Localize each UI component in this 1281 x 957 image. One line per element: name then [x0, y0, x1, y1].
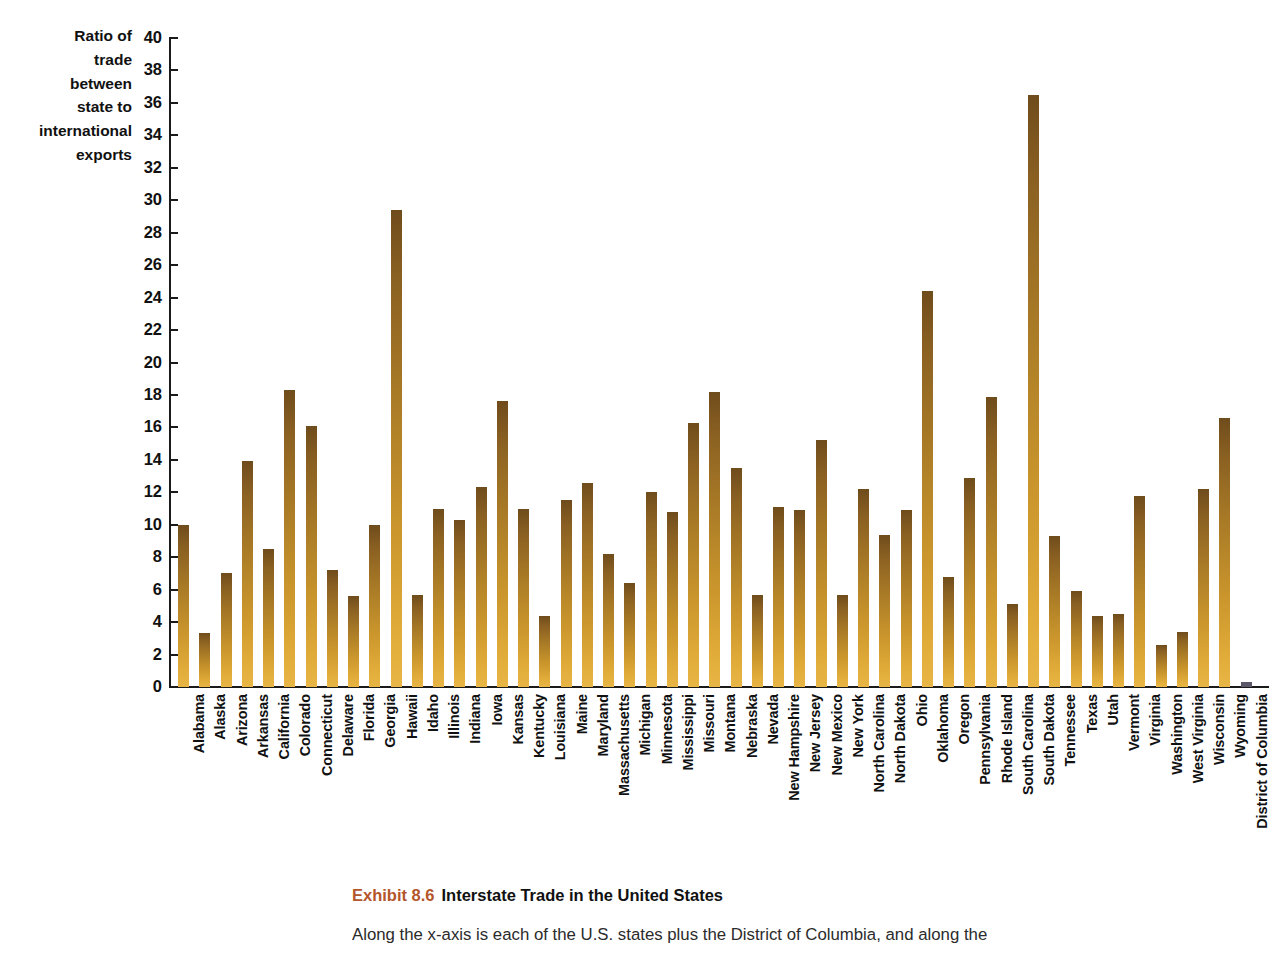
x-label-virginia: Virginia	[1147, 694, 1163, 746]
bar-new-hampshire[interactable]	[773, 507, 784, 687]
bar-new-mexico[interactable]	[816, 440, 827, 687]
exhibit-number: Exhibit 8.6	[352, 886, 435, 904]
y-tick-label-wrap: 14	[130, 451, 162, 468]
x-label-maryland: Maryland	[595, 694, 611, 756]
bar-colorado[interactable]	[284, 390, 295, 687]
y-tick-label: 26	[132, 256, 162, 273]
bar-missouri[interactable]	[688, 423, 699, 687]
bar-rhode-island[interactable]	[986, 397, 997, 687]
bar-virginia[interactable]	[1134, 496, 1145, 687]
y-tick-label-wrap: 40	[130, 29, 162, 46]
x-label-alabama: Alabama	[191, 694, 207, 753]
x-label-tennessee: Tennessee	[1062, 694, 1078, 766]
bar-nevada[interactable]	[752, 595, 763, 687]
bar-maine[interactable]	[561, 500, 572, 687]
bar-new-jersey[interactable]	[794, 510, 805, 687]
bar-new-york[interactable]	[837, 595, 848, 687]
bar-georgia[interactable]	[369, 525, 380, 687]
x-label-indiana: Indiana	[467, 694, 483, 744]
x-label-new-jersey: New Jersey	[807, 694, 823, 772]
y-tick-label-wrap: 28	[130, 224, 162, 241]
y-tick-label: 34	[132, 126, 162, 143]
x-label-kentucky: Kentucky	[531, 694, 547, 758]
bar-vermont[interactable]	[1113, 614, 1124, 687]
bar-california[interactable]	[263, 549, 274, 687]
bar-mississippi[interactable]	[667, 512, 678, 687]
y-tick-label-wrap: 20	[130, 354, 162, 371]
bar-oklahoma[interactable]	[922, 291, 933, 687]
bar-wyoming[interactable]	[1219, 418, 1230, 687]
bar-minnesota[interactable]	[646, 492, 657, 687]
y-tick-label: 8	[132, 548, 162, 565]
y-tick-label: 0	[132, 678, 162, 695]
x-label-colorado: Colorado	[297, 694, 313, 756]
x-label-idaho: Idaho	[425, 694, 441, 732]
bar-west-virginia[interactable]	[1177, 632, 1188, 687]
exhibit-caption: Exhibit 8.6Interstate Trade in the Unite…	[352, 884, 1252, 908]
y-tick-label: 16	[132, 418, 162, 435]
y-tick-label: 28	[132, 224, 162, 241]
bar-oregon[interactable]	[943, 577, 954, 687]
bar-illinois[interactable]	[433, 509, 444, 687]
x-label-south-dakota: South Dakota	[1041, 694, 1057, 786]
y-tick-label-wrap: 32	[130, 159, 162, 176]
x-label-iowa: Iowa	[489, 694, 505, 726]
bar-kentucky[interactable]	[518, 509, 529, 687]
x-label-nevada: Nevada	[765, 694, 781, 745]
bar-connecticut[interactable]	[306, 426, 317, 687]
x-label-arkansas: Arkansas	[255, 694, 271, 758]
bar-florida[interactable]	[348, 596, 359, 687]
bar-texas[interactable]	[1071, 591, 1082, 687]
bar-north-dakota[interactable]	[879, 535, 890, 688]
bar-delaware[interactable]	[327, 570, 338, 687]
bar-pennsylvania[interactable]	[964, 478, 975, 687]
x-label-alaska: Alaska	[212, 694, 228, 740]
y-tick-label: 4	[132, 613, 162, 630]
y-tick-label: 24	[132, 289, 162, 306]
x-label-rhode-island: Rhode Island	[999, 694, 1015, 783]
x-label-minnesota: Minnesota	[659, 694, 675, 764]
bar-idaho[interactable]	[412, 595, 423, 687]
bar-hawaii[interactable]	[391, 210, 402, 687]
x-label-mississippi: Mississippi	[680, 694, 696, 770]
x-label-georgia: Georgia	[382, 694, 398, 748]
x-label-montana: Montana	[722, 694, 738, 752]
bar-arkansas[interactable]	[242, 461, 253, 687]
x-label-wisconsin: Wisconsin	[1211, 694, 1227, 765]
y-tick-label-wrap: 6	[130, 581, 162, 598]
bar-iowa[interactable]	[476, 487, 487, 687]
y-tick-label: 38	[132, 61, 162, 78]
bar-south-dakota[interactable]	[1028, 95, 1039, 687]
y-tick-label-wrap: 2	[130, 646, 162, 663]
bar-tennessee[interactable]	[1049, 536, 1060, 687]
bar-alaska[interactable]	[199, 633, 210, 687]
bar-alabama[interactable]	[178, 525, 189, 687]
bar-arizona[interactable]	[221, 573, 232, 687]
y-tick-label: 14	[132, 451, 162, 468]
bar-south-carolina[interactable]	[1007, 604, 1018, 687]
bar-maryland[interactable]	[582, 483, 593, 687]
x-label-pennsylvania: Pennsylvania	[977, 694, 993, 785]
bar-washington[interactable]	[1156, 645, 1167, 687]
y-tick-label-wrap: 36	[130, 94, 162, 111]
x-label-new-mexico: New Mexico	[829, 694, 845, 775]
bar-wisconsin[interactable]	[1198, 489, 1209, 687]
y-tick-label-wrap: 10	[130, 516, 162, 533]
x-label-maine: Maine	[574, 694, 590, 734]
bar-nebraska[interactable]	[731, 468, 742, 687]
bar-ohio[interactable]	[901, 510, 912, 687]
bar-utah[interactable]	[1092, 616, 1103, 687]
bar-massachusetts[interactable]	[603, 554, 614, 687]
y-tick-label-wrap: 4	[130, 613, 162, 630]
bar-indiana[interactable]	[454, 520, 465, 687]
bar-montana[interactable]	[709, 392, 720, 687]
bar-district-of-columbia[interactable]	[1241, 682, 1252, 687]
y-tick-label: 30	[132, 191, 162, 208]
bar-kansas[interactable]	[497, 401, 508, 687]
bar-north-carolina[interactable]	[858, 489, 869, 687]
bar-louisiana[interactable]	[539, 616, 550, 687]
x-label-washington: Washington	[1169, 694, 1185, 775]
bar-michigan[interactable]	[624, 583, 635, 687]
x-label-new-york: New York	[850, 694, 866, 757]
y-tick-label-wrap: 38	[130, 61, 162, 78]
